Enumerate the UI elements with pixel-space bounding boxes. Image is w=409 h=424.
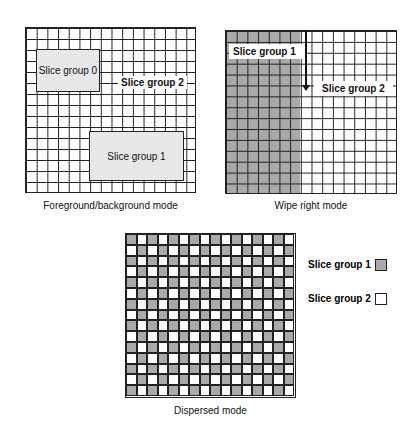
dispersed-cell <box>126 331 137 342</box>
dispersed-cell <box>158 385 169 396</box>
fg-slice-group-2-label: Slice group 2 <box>118 76 187 89</box>
dispersed-cell <box>252 331 263 342</box>
dispersed-cell <box>242 299 253 310</box>
dispersed-cell <box>126 320 137 331</box>
dispersed-cell <box>137 266 148 277</box>
dispersed-cell <box>137 331 148 342</box>
dispersed-cell <box>137 320 148 331</box>
dispersed-cell <box>200 342 211 353</box>
dispersed-cell <box>210 342 221 353</box>
dispersed-cell <box>210 364 221 375</box>
dispersed-cell <box>231 385 242 396</box>
legend-item-slice-group-2: Slice group 2 <box>308 293 387 305</box>
dispersed-cell <box>242 364 253 375</box>
dispersed-cell <box>221 245 232 256</box>
dispersed-cell <box>137 353 148 364</box>
wipe-right-caption: Wipe right mode <box>225 200 397 211</box>
dispersed-cell <box>221 288 232 299</box>
dispersed-cell <box>126 299 137 310</box>
slice-group-1-region: Slice group 1 <box>89 131 184 181</box>
dispersed-cell <box>189 353 200 364</box>
dispersed-cell <box>221 374 232 385</box>
dispersed-cell <box>189 331 200 342</box>
dispersed-cell <box>126 288 137 299</box>
dispersed-cell <box>158 234 169 245</box>
dispersed-cell <box>231 266 242 277</box>
dispersed-cell <box>158 374 169 385</box>
dispersed-cell <box>147 256 158 267</box>
dispersed-cell <box>231 353 242 364</box>
dispersed-cell <box>147 277 158 288</box>
dispersed-cell <box>221 310 232 321</box>
dispersed-cell <box>179 256 190 267</box>
dispersed-cell <box>263 364 274 375</box>
dispersed-cell <box>252 353 263 364</box>
dispersed-cell <box>284 342 295 353</box>
dispersed-cell <box>147 353 158 364</box>
dispersed-cell <box>273 266 284 277</box>
dispersed-cell <box>263 353 274 364</box>
dispersed-cell <box>210 331 221 342</box>
dispersed-cell <box>231 320 242 331</box>
dispersed-cell <box>189 342 200 353</box>
dispersed-cell <box>242 374 253 385</box>
dispersed-cell <box>179 374 190 385</box>
dispersed-cell <box>147 364 158 375</box>
dispersed-cell <box>200 320 211 331</box>
dispersed-cell <box>126 385 137 396</box>
dispersed-cell <box>158 310 169 321</box>
fg-bg-caption: Foreground/background mode <box>25 200 196 211</box>
dispersed-cell <box>126 266 137 277</box>
legend-label-1: Slice group 1 <box>308 259 371 270</box>
dispersed-cell <box>210 256 221 267</box>
dispersed-cell <box>137 245 148 256</box>
dispersed-cell <box>158 331 169 342</box>
dispersed-cell <box>231 277 242 288</box>
dispersed-cell <box>147 310 158 321</box>
dispersed-cell <box>284 331 295 342</box>
dispersed-cell <box>284 299 295 310</box>
dispersed-cell <box>179 288 190 299</box>
dispersed-cell <box>179 320 190 331</box>
dispersed-cell <box>158 277 169 288</box>
dispersed-cell <box>137 277 148 288</box>
dispersed-cell <box>137 256 148 267</box>
dispersed-cell <box>147 266 158 277</box>
dispersed-cell <box>179 331 190 342</box>
dispersed-cell <box>168 277 179 288</box>
dispersed-cell <box>158 299 169 310</box>
dispersed-cell <box>158 342 169 353</box>
dispersed-cell <box>263 288 274 299</box>
dispersed-cell <box>200 310 211 321</box>
dispersed-cell <box>168 364 179 375</box>
dispersed-cell <box>263 342 274 353</box>
dispersed-cell <box>168 310 179 321</box>
dispersed-cell <box>242 266 253 277</box>
dispersed-cell <box>252 374 263 385</box>
dispersed-cell <box>284 256 295 267</box>
dispersed-cell <box>263 331 274 342</box>
dispersed-cell <box>168 353 179 364</box>
dispersed-cell <box>221 342 232 353</box>
dispersed-cell <box>231 256 242 267</box>
dispersed-cell <box>179 266 190 277</box>
dispersed-cell <box>179 299 190 310</box>
dispersed-cell <box>189 299 200 310</box>
dispersed-cell <box>200 277 211 288</box>
dispersed-cell <box>242 310 253 321</box>
dispersed-cell <box>126 364 137 375</box>
dispersed-cell <box>263 299 274 310</box>
dispersed-cell <box>200 299 211 310</box>
dispersed-cell <box>231 374 242 385</box>
dispersed-cell <box>137 288 148 299</box>
dispersed-cell <box>147 299 158 310</box>
dispersed-cell <box>263 385 274 396</box>
dispersed-cell <box>273 364 284 375</box>
dispersed-cell <box>263 266 274 277</box>
dispersed-cell <box>252 320 263 331</box>
dispersed-cell <box>179 245 190 256</box>
dispersed-cell <box>179 234 190 245</box>
dispersed-cell <box>158 256 169 267</box>
dispersed-cell <box>221 299 232 310</box>
dispersed-cell <box>231 245 242 256</box>
